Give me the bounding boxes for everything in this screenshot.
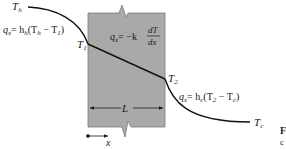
thickness-label: L bbox=[121, 102, 128, 114]
plane-wall-diagram: L x Th qx= hh(Th − T1) T1 qx= −k dT dx T… bbox=[0, 0, 286, 150]
hot-side-convection-equation: qx= hh(Th − T1) bbox=[3, 24, 64, 37]
conduction-fraction-denominator: dx bbox=[148, 37, 157, 47]
cold-surface-temp-label: T2 bbox=[168, 72, 178, 86]
hot-fluid-temp-label: Th bbox=[12, 0, 22, 14]
clipped-caption-line-2: c bbox=[280, 137, 284, 147]
hot-surface-temp-label: T1 bbox=[77, 38, 87, 52]
clipped-caption-line-1: F bbox=[280, 125, 286, 136]
cold-side-convection-equation: qx= hc(T2 − Tc) bbox=[179, 91, 239, 104]
cold-fluid-temp-label: Tc bbox=[254, 116, 264, 130]
x-axis-label: x bbox=[105, 137, 111, 148]
conduction-fraction-numerator: dT bbox=[148, 25, 159, 35]
